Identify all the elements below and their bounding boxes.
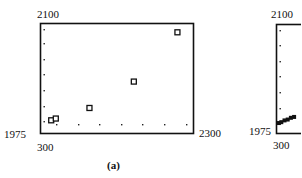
y-tick-dot xyxy=(44,59,45,60)
data-point xyxy=(87,105,92,110)
panel-b-y-max-label: 2100 xyxy=(271,8,294,20)
x-tick-dot xyxy=(121,124,122,125)
y-tick-dot xyxy=(280,92,281,93)
y-tick-dot xyxy=(280,45,281,46)
x-tick-dot xyxy=(164,124,165,125)
x-tick-dot xyxy=(78,124,79,125)
panel-a-y-max-label: 2100 xyxy=(37,8,60,20)
y-tick-dot xyxy=(44,121,45,122)
panel-b-y-tick-dots xyxy=(280,30,281,109)
panel-a-frame xyxy=(41,24,194,134)
figure: 2100 1975 300 2300 (a) 2100 1975 300 xyxy=(0,0,301,178)
panel-b-y-min-label: 1975 xyxy=(249,125,272,137)
data-point xyxy=(53,116,58,121)
x-tick-dot xyxy=(56,124,57,125)
panel-a-y-min-label: 1975 xyxy=(4,128,27,140)
panel-a-x-tick-dots xyxy=(56,124,187,125)
y-tick-dot xyxy=(280,108,281,109)
x-tick-dot xyxy=(142,124,143,125)
panel-b-frame xyxy=(277,25,302,134)
panel-b: 2100 1975 300 xyxy=(249,8,301,151)
panel-a-y-tick-dots xyxy=(44,29,45,122)
y-tick-dot xyxy=(280,76,281,77)
panel-a-caption: (a) xyxy=(107,159,120,172)
data-point xyxy=(131,79,136,84)
y-tick-dot xyxy=(280,30,281,31)
panel-a-x-min-label: 300 xyxy=(37,141,54,153)
panel-a: 2100 1975 300 2300 (a) xyxy=(4,8,222,172)
y-tick-dot xyxy=(280,61,281,62)
panel-b-x-min-label: 300 xyxy=(273,139,290,151)
panel-a-x-max-label: 2300 xyxy=(199,127,222,139)
panel-a-points xyxy=(49,30,180,123)
y-tick-dot xyxy=(44,43,45,44)
y-tick-dot xyxy=(44,29,45,30)
data-point xyxy=(292,115,296,119)
y-tick-dot xyxy=(44,106,45,107)
x-tick-dot xyxy=(99,124,100,125)
y-tick-dot xyxy=(44,74,45,75)
y-tick-dot xyxy=(44,90,45,91)
panel-b-points xyxy=(277,115,296,125)
data-point xyxy=(175,30,180,35)
x-tick-dot xyxy=(186,124,187,125)
